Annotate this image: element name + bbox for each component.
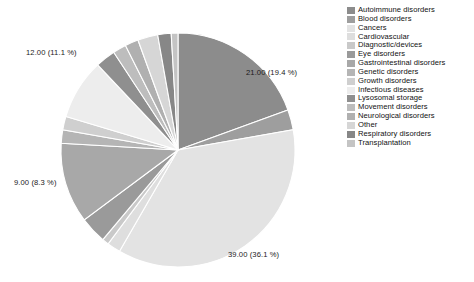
chart-legend: Autoimmune disordersBlood disordersCance… — [347, 6, 474, 148]
legend-color-swatch-icon — [347, 131, 355, 138]
pie-slice-value-label: 39.00 (36.1 %) — [228, 250, 279, 259]
legend-color-swatch-icon — [347, 33, 355, 40]
legend-color-swatch-icon — [347, 78, 355, 85]
legend-color-swatch-icon — [347, 87, 355, 94]
legend-color-swatch-icon — [347, 113, 355, 120]
pie-svg — [0, 0, 340, 282]
legend-color-swatch-icon — [347, 16, 355, 23]
legend-color-swatch-icon — [347, 95, 355, 102]
legend-color-swatch-icon — [347, 7, 355, 14]
pie-chart-figure: 21.00 (19.4 %)39.00 (36.1 %)9.00 (8.3 %)… — [0, 0, 474, 282]
pie-slice-value-label: 9.00 (8.3 %) — [14, 178, 57, 187]
legend-color-swatch-icon — [347, 140, 355, 147]
legend-color-swatch-icon — [347, 104, 355, 111]
pie-plot-area: 21.00 (19.4 %)39.00 (36.1 %)9.00 (8.3 %)… — [0, 0, 340, 282]
legend-color-swatch-icon — [347, 122, 355, 129]
legend-item-label: Transplantation — [358, 139, 411, 148]
pie-slice-value-label: 21.00 (19.4 %) — [246, 68, 297, 77]
legend-color-swatch-icon — [347, 42, 355, 49]
legend-color-swatch-icon — [347, 51, 355, 58]
pie-slice-value-label: 12.00 (11.1 %) — [26, 48, 77, 57]
legend-color-swatch-icon — [347, 25, 355, 32]
legend-item[interactable]: Transplantation — [347, 139, 474, 148]
legend-color-swatch-icon — [347, 69, 355, 76]
legend-color-swatch-icon — [347, 60, 355, 67]
